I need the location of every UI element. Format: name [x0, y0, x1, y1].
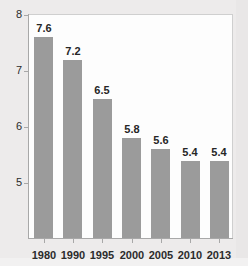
bar[interactable] [34, 37, 53, 238]
bar[interactable] [122, 138, 141, 238]
bar-value-label: 5.6 [148, 135, 174, 146]
x-axis-tick-mark [161, 239, 162, 243]
y-axis-tick-mark [24, 71, 29, 72]
figure-background-right-band [236, 0, 248, 266]
x-axis-tick-label: 1990 [58, 249, 88, 261]
bar-chart-figure: 8765 7.67.26.55.85.65.45.4 1980199019952… [0, 0, 248, 277]
x-axis-tick-label: 2013 [204, 249, 234, 261]
x-axis-tick-mark [190, 239, 191, 243]
y-axis-tick-mark [24, 183, 29, 184]
bar-value-label: 5.4 [206, 147, 232, 158]
bar-value-label: 5.4 [177, 147, 203, 158]
x-axis-tick-label: 1995 [87, 249, 117, 261]
bar-value-label: 6.5 [89, 85, 115, 96]
x-axis-tick-label: 2000 [117, 249, 147, 261]
x-axis-tick-label: 1980 [29, 249, 59, 261]
x-axis-tick-label: 2005 [146, 249, 176, 261]
y-axis-tick-mark [24, 15, 29, 16]
x-axis-tick-mark [132, 239, 133, 243]
y-axis-tick-label: 7 [8, 65, 22, 76]
y-axis-tick-label: 5 [8, 177, 22, 188]
y-axis-tick-label: 8 [8, 9, 22, 20]
y-axis-tick-mark [24, 127, 29, 128]
bar-value-label: 7.2 [60, 46, 86, 57]
bar[interactable] [63, 60, 82, 238]
x-axis-tick-label: 2010 [175, 249, 205, 261]
bar-value-label: 7.6 [31, 23, 57, 34]
bar[interactable] [93, 99, 112, 238]
bar[interactable] [151, 149, 170, 238]
x-axis-tick-mark [102, 239, 103, 243]
y-axis-tick-label: 6 [8, 121, 22, 132]
x-axis-tick-mark [44, 239, 45, 243]
bar[interactable] [181, 161, 200, 238]
x-axis-tick-mark [73, 239, 74, 243]
x-axis-tick-mark [219, 239, 220, 243]
bar[interactable] [210, 161, 229, 238]
x-axis-line [28, 238, 233, 239]
bar-value-label: 5.8 [119, 124, 145, 135]
